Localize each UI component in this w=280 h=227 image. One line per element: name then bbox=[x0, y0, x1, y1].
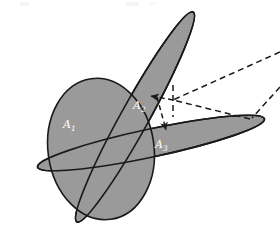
region-label-a3-subscript: 3 bbox=[163, 144, 168, 153]
region-label-a3-letter: A bbox=[154, 138, 163, 151]
region-label-a1-subscript: 1 bbox=[71, 124, 76, 133]
figure-container: A1 A2 A3 bbox=[0, 0, 280, 227]
ghost-fragment-right-2 bbox=[150, 2, 156, 5]
leader-upper-right bbox=[173, 52, 280, 100]
leader-lines-group bbox=[173, 52, 280, 119]
region-label-a2-subscript: 2 bbox=[140, 105, 146, 114]
regions-group bbox=[35, 5, 268, 227]
leader-lower-right bbox=[252, 87, 280, 118]
ellipse-venn-figure: A1 A2 A3 bbox=[0, 0, 280, 227]
leader-lower-to-vertex bbox=[173, 100, 250, 119]
region-label-a2-letter: A bbox=[132, 99, 141, 112]
ghost-fragment-left bbox=[20, 2, 29, 6]
ghost-text-row bbox=[20, 2, 156, 6]
region-label-a1-letter: A bbox=[62, 118, 71, 131]
ghost-fragment-right bbox=[126, 2, 139, 6]
